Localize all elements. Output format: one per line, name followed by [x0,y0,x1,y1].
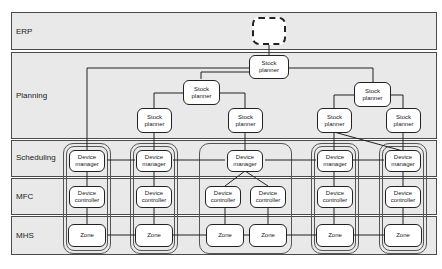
stock-planner-mid-right: Stockplanner [354,82,391,107]
device-manager-5: Devicemanager [385,150,421,172]
stock-planner-leaf-3: Stockplanner [317,108,352,133]
device-manager-2: Devicemanager [136,150,172,172]
device-controller-5: Devicecontroller [317,186,353,208]
zone-6: Zone [384,224,422,247]
zone-5: Zone [316,224,354,247]
device-controller-4: Devicecontroller [250,186,286,208]
stock-planner-leaf-4: Stockplanner [386,108,421,133]
device-manager-3: Devicemanager [227,150,263,172]
stock-planner-mid-left: Stockplanner [183,80,220,105]
device-controller-3: Devicecontroller [205,186,241,208]
stock-planner-leaf-1: Stockplanner [137,108,172,133]
zone-3: Zone [206,224,244,247]
device-controller-1: Devicecontroller [69,186,105,208]
stock-planner-top: Stockplanner [249,55,289,79]
zone-1: Zone [68,224,106,247]
erp-external-system [252,17,286,45]
device-manager-1: Devicemanager [69,150,105,172]
zone-4: Zone [249,224,287,247]
stock-planner-leaf-2: Stockplanner [228,108,263,133]
zone-2: Zone [135,224,173,247]
device-controller-2: Devicecontroller [136,186,172,208]
device-controller-6: Devicecontroller [385,186,421,208]
device-manager-4: Devicemanager [317,150,353,172]
